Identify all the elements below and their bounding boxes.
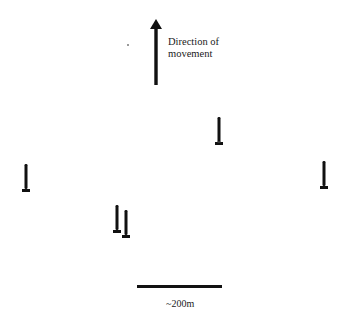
stray-dot bbox=[127, 44, 129, 46]
marker-icon bbox=[121, 210, 131, 240]
direction-label-line1: Direction of bbox=[168, 36, 219, 48]
direction-label: Direction of movement bbox=[168, 36, 219, 59]
marker-icon bbox=[214, 117, 224, 147]
marker-icon bbox=[21, 164, 31, 194]
scale-bar bbox=[137, 285, 222, 288]
diagram-canvas: Direction of movement ~200m bbox=[0, 0, 345, 325]
marker-icon bbox=[319, 161, 329, 191]
scale-label: ~200m bbox=[166, 298, 194, 309]
up-arrow-icon bbox=[150, 19, 162, 85]
direction-label-line2: movement bbox=[168, 48, 219, 60]
